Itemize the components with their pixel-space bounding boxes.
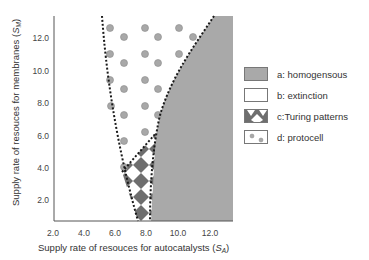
y-axis-label: Supply rate of resouces for membranes (S… xyxy=(10,19,22,206)
region-homogeneous xyxy=(150,16,233,221)
legend-label: d: protocell xyxy=(277,132,323,143)
legend-label: c:Turing patterns xyxy=(277,111,348,122)
legend-label: a: homogensous xyxy=(277,69,347,80)
y-tick: 8.0 xyxy=(37,98,49,108)
turing-swatch-icon xyxy=(244,109,268,123)
x-tick: 2.0 xyxy=(47,228,59,238)
x-axis-label: Supply rate of resouces for autocatalyst… xyxy=(38,242,229,254)
legend-item-extinction: b: extinction xyxy=(244,87,348,103)
legend-label: b: extinction xyxy=(277,90,328,101)
x-tick: 6.0 xyxy=(109,228,121,238)
protocell-swatch-icon xyxy=(244,130,268,144)
x-tick-labels: 2.0 4.0 6.0 8.0 10.0 12.0 xyxy=(47,228,218,238)
y-tick: 4.0 xyxy=(37,163,49,173)
region-turing-patterns xyxy=(122,133,156,221)
legend: a: homogensous b: extinction c:Turing pa… xyxy=(244,66,348,150)
y-tick: 6.0 xyxy=(37,131,49,141)
y-tick: 12.0 xyxy=(32,33,49,43)
x-tick: 12.0 xyxy=(202,228,219,238)
y-tick: 2.0 xyxy=(37,195,49,205)
y-tick: 10.0 xyxy=(32,66,49,76)
x-tick: 10.0 xyxy=(170,228,187,238)
legend-item-homogeneous: a: homogensous xyxy=(244,66,348,82)
y-tick-labels: 12.0 10.0 8.0 6.0 4.0 2.0 xyxy=(32,33,49,205)
homogeneous-swatch-icon xyxy=(244,67,268,81)
x-tick: 8.0 xyxy=(140,228,152,238)
legend-item-turing: c:Turing patterns xyxy=(244,108,348,124)
legend-item-protocell: d: protocell xyxy=(244,129,348,145)
extinction-swatch-icon xyxy=(244,88,268,102)
x-tick: 4.0 xyxy=(78,228,90,238)
